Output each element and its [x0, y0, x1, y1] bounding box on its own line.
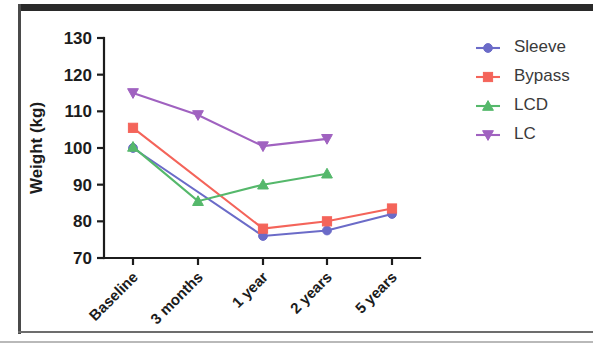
y-axis-tick-label: 130 [64, 29, 92, 48]
data-series-group [128, 89, 397, 241]
legend-item-sleeve[interactable]: Sleeve [476, 37, 566, 56]
data-point-bypass [128, 123, 137, 132]
y-axis-title: Weight (kg) [27, 102, 46, 194]
data-point-bypass [322, 217, 331, 226]
series-line-sleeve [133, 148, 392, 236]
y-axis-tick-label: 120 [64, 66, 92, 85]
data-point-sleeve [323, 226, 332, 235]
y-axis-tick-label: 80 [73, 212, 92, 231]
data-point-lcd [322, 168, 333, 178]
chart-legend: SleeveBypassLCDLC [476, 37, 570, 143]
legend-item-label: Sleeve [514, 37, 566, 56]
y-axis-tick-label: 110 [65, 102, 92, 121]
x-axis-tick-label: 1 year [228, 268, 271, 311]
x-axis-tick-label: 2 years [287, 268, 336, 317]
data-point-bypass [258, 224, 267, 233]
x-axis-tick-label: 5 years [352, 268, 401, 317]
series-line-lc [133, 93, 327, 146]
legend-item-label: Bypass [514, 66, 570, 85]
legend-item-lc[interactable]: LC [476, 124, 536, 143]
x-axis-tick-label: 3 months [147, 268, 206, 327]
x-axis: Baseline3 months1 year2 years5 years [85, 258, 420, 327]
legend-item-lcd[interactable]: LCD [476, 95, 548, 114]
y-axis-tick-label: 100 [64, 139, 92, 158]
y-axis-tick-label: 70 [73, 249, 92, 268]
y-axis-tick-label: 90 [73, 176, 92, 195]
legend-marker-circle [484, 44, 493, 53]
line-chart: 708090100110120130 Baseline3 months1 yea… [0, 0, 593, 346]
legend-item-label: LCD [514, 95, 548, 114]
legend-marker-square [483, 72, 492, 81]
y-axis: 708090100110120130 [64, 29, 104, 268]
data-point-bypass [387, 204, 396, 213]
x-axis-tick-label: Baseline [85, 268, 141, 324]
legend-item-bypass[interactable]: Bypass [476, 66, 570, 85]
legend-item-label: LC [514, 124, 536, 143]
data-point-lc [193, 111, 204, 121]
series-line-lcd [133, 147, 327, 201]
chart-page: 708090100110120130 Baseline3 months1 yea… [0, 0, 593, 346]
